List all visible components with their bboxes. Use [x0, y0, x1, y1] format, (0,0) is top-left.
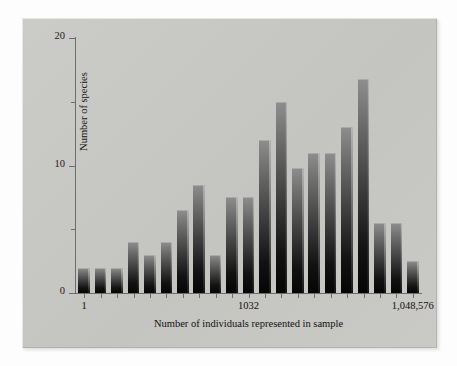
figure-canvas: 01020 110321,048,576 Number of species N… [0, 0, 457, 366]
bar-right-edge [318, 153, 320, 293]
y-axis-tick-major: 0 [69, 293, 76, 294]
x-axis-tick [134, 293, 135, 298]
bar [95, 268, 107, 294]
x-axis-tick [101, 293, 102, 298]
bar [391, 223, 403, 293]
bar-right-edge [203, 185, 205, 293]
x-axis-tick [298, 293, 299, 298]
bar [161, 242, 173, 293]
x-axis-tick [347, 293, 348, 298]
bar [407, 261, 419, 293]
bar-right-edge [417, 261, 419, 293]
bar-right-edge [121, 268, 123, 294]
bar-right-edge [187, 210, 189, 293]
chart-panel: 01020 110321,048,576 Number of species N… [22, 18, 437, 348]
bar [144, 255, 156, 293]
bar [341, 127, 353, 293]
bar [259, 140, 271, 293]
bar [226, 197, 238, 293]
x-axis-tick [380, 293, 381, 298]
bar [177, 210, 189, 293]
bar [325, 153, 337, 293]
x-axis-tick [199, 293, 200, 298]
bar-right-edge [401, 223, 403, 293]
x-axis-tick [232, 293, 233, 298]
x-axis-tick [281, 293, 282, 298]
y-axis-tick-label: 20 [55, 30, 66, 41]
bar-right-edge [220, 255, 222, 293]
bar-right-edge [384, 223, 386, 293]
x-axis-tick [117, 293, 118, 298]
x-axis-tick-label: 1 [82, 300, 87, 311]
bar [210, 255, 222, 293]
x-axis-tick [150, 293, 151, 298]
x-axis-tick [396, 293, 397, 298]
bar-right-edge [105, 268, 107, 294]
bar-right-edge [368, 79, 370, 293]
x-axis-tick [183, 293, 184, 298]
y-axis-tick-major: 20 [69, 38, 76, 39]
bar [374, 223, 386, 293]
y-axis-tick-label: 0 [60, 285, 65, 296]
x-axis-tick [331, 293, 332, 298]
x-axis-tick [265, 293, 266, 298]
bar-right-edge [171, 242, 173, 293]
bar-right-edge [236, 197, 238, 293]
bar [292, 168, 304, 293]
bar [128, 242, 140, 293]
bar-right-edge [253, 197, 255, 293]
y-axis-tick-label: 10 [55, 158, 66, 169]
x-axis-tick [249, 293, 250, 298]
x-axis-tick [216, 293, 217, 298]
x-axis-tick-label: 1032 [238, 300, 259, 311]
bar-right-edge [335, 153, 337, 293]
x-axis-tick-label: 1,048,576 [392, 300, 434, 311]
bar [358, 79, 370, 293]
x-axis-tick [84, 293, 85, 298]
bar [308, 153, 320, 293]
bar-right-edge [302, 168, 304, 293]
bar [111, 268, 123, 294]
x-axis-tick [413, 293, 414, 298]
bar-right-edge [269, 140, 271, 293]
y-axis-tick-major: 10 [69, 166, 76, 167]
x-axis-tick [166, 293, 167, 298]
bar [193, 185, 205, 293]
bar [78, 268, 90, 294]
bar-right-edge [286, 102, 288, 293]
bar-right-edge [138, 242, 140, 293]
bar-right-edge [351, 127, 353, 293]
bar-right-edge [154, 255, 156, 293]
bar-right-edge [88, 268, 90, 294]
x-axis-tick [364, 293, 365, 298]
plot-area [76, 38, 421, 293]
x-axis-tick [314, 293, 315, 298]
x-axis-title: Number of individuals represented in sam… [76, 318, 421, 329]
bar [243, 197, 255, 293]
bar [276, 102, 288, 293]
